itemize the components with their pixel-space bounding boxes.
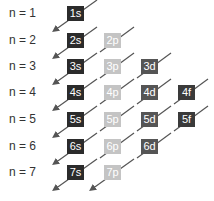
orbital-3p: 3p [104,59,121,74]
orbital-4p: 4p [104,85,121,100]
orbital-2s: 2s [67,33,84,48]
orbital-6p: 6p [104,139,121,154]
orbital-2p: 2p [104,33,121,48]
n-label: n = 4 [9,85,36,99]
n-label: n = 6 [9,139,36,153]
n-label: n = 7 [9,165,36,179]
orbital-5p: 5p [104,112,121,127]
orbital-1s: 1s [67,6,84,21]
n-label: n = 3 [9,59,36,73]
orbital-6s: 6s [67,139,84,154]
orbital-4s: 4s [67,85,84,100]
orbital-3d: 3d [141,59,158,74]
orbital-5d: 5d [141,112,158,127]
orbital-7s: 7s [67,165,84,180]
orbital-7p: 7p [104,165,121,180]
n-label: n = 2 [9,33,36,47]
aufbau-diagram: n = 11sn = 22s2pn = 33s3p3dn = 44s4p4d4f… [0,0,214,201]
n-label: n = 1 [9,6,36,20]
n-label: n = 5 [9,112,36,126]
orbital-5s: 5s [67,112,84,127]
orbital-4d: 4d [141,85,158,100]
orbital-4f: 4f [178,85,195,100]
orbital-3s: 3s [67,59,84,74]
orbital-5f: 5f [178,112,195,127]
orbital-6d: 6d [141,139,158,154]
